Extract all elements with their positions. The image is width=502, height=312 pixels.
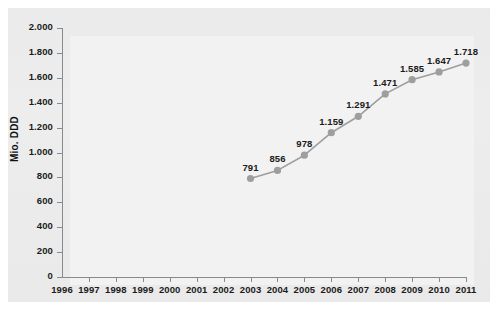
data-point-label: 1.718	[454, 46, 478, 57]
data-point-label: 1.585	[400, 63, 424, 74]
data-point-label: 978	[296, 138, 312, 149]
data-point-label: 791	[242, 162, 258, 173]
data-point-label: 1.291	[346, 99, 370, 110]
data-point-label: 856	[269, 153, 285, 164]
data-point-label: 1.647	[427, 55, 451, 66]
data-point	[274, 167, 281, 174]
data-point	[328, 129, 335, 136]
data-point	[382, 90, 389, 97]
data-point-label: 1.159	[319, 116, 343, 127]
data-point-label: 1.471	[373, 77, 397, 88]
data-point	[301, 152, 308, 159]
series-line-layer	[0, 0, 502, 312]
data-point	[436, 68, 443, 75]
data-point	[355, 113, 362, 120]
data-point	[247, 175, 254, 182]
data-point	[462, 60, 469, 67]
data-point	[409, 76, 416, 83]
chart-figure: Mio. DDD 02004006008001.0001.2001.4001.6…	[0, 0, 502, 312]
